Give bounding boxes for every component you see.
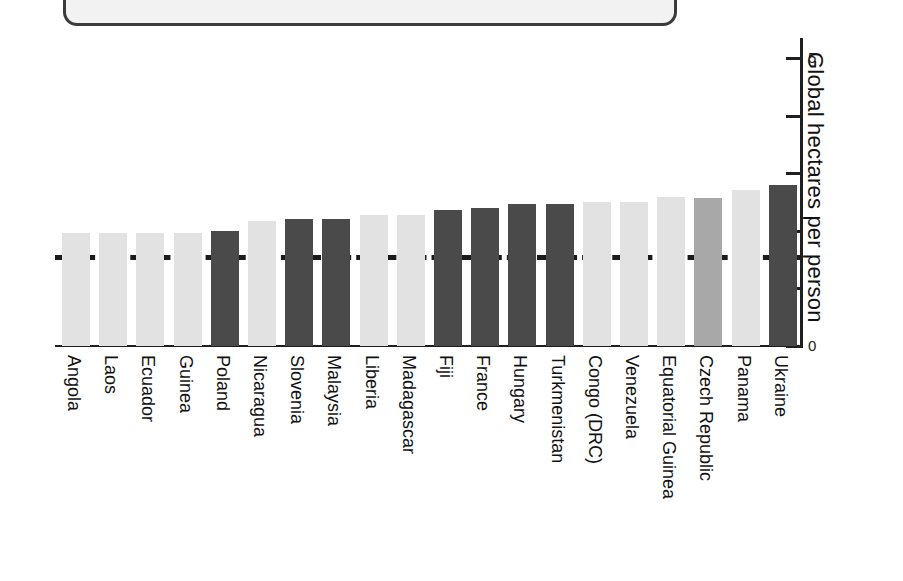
category-label: Congo (DRC) bbox=[586, 355, 604, 464]
category-label: Hungary bbox=[511, 355, 529, 423]
x-axis-baseline bbox=[55, 345, 803, 347]
y-tick-5 bbox=[786, 57, 801, 60]
bar bbox=[471, 208, 499, 346]
bar bbox=[211, 231, 239, 346]
y-tick-3 bbox=[786, 172, 801, 175]
category-label: Panama bbox=[735, 355, 753, 422]
category-label: Fiji bbox=[437, 355, 455, 378]
category-label: Ukraine bbox=[772, 355, 790, 417]
bar bbox=[508, 204, 536, 346]
bar bbox=[732, 190, 760, 346]
category-label: Equatorial Guinea bbox=[660, 355, 678, 499]
category-label: Angola bbox=[65, 355, 83, 411]
bar bbox=[174, 233, 202, 346]
bar bbox=[434, 210, 462, 346]
category-label: Liberia bbox=[363, 355, 381, 409]
category-label: France bbox=[474, 355, 492, 411]
plot-area bbox=[55, 40, 800, 346]
bar bbox=[583, 202, 611, 346]
category-label: Venezuela bbox=[623, 355, 641, 439]
category-label: Madagascar bbox=[400, 355, 418, 454]
world-average-dashed-line bbox=[55, 255, 803, 260]
y-tick-4 bbox=[786, 115, 801, 118]
bar-chart: 05 AngolaLaosEcuadorGuineaPolandNicaragu… bbox=[0, 0, 903, 581]
bar bbox=[62, 233, 90, 346]
bar bbox=[769, 185, 797, 346]
category-label: Laos bbox=[102, 355, 120, 394]
bar bbox=[546, 204, 574, 346]
bar bbox=[285, 219, 313, 346]
bar bbox=[657, 197, 685, 346]
category-label: Slovenia bbox=[288, 355, 306, 424]
category-label: Poland bbox=[214, 355, 232, 411]
bar bbox=[620, 202, 648, 346]
y-axis-title: Global hectares per person bbox=[804, 52, 826, 352]
category-label: Czech Republic bbox=[697, 355, 715, 481]
category-label: Guinea bbox=[177, 355, 195, 413]
bar bbox=[99, 233, 127, 346]
bar bbox=[694, 198, 722, 346]
category-label: Malaysia bbox=[325, 355, 343, 426]
bar bbox=[248, 221, 276, 346]
bar bbox=[360, 215, 388, 346]
category-label: Ecuador bbox=[139, 355, 157, 422]
category-label: Nicaragua bbox=[251, 355, 269, 437]
bar bbox=[136, 233, 164, 346]
bar bbox=[322, 219, 350, 346]
bar bbox=[397, 215, 425, 346]
category-label: Turkmenistan bbox=[549, 355, 567, 463]
